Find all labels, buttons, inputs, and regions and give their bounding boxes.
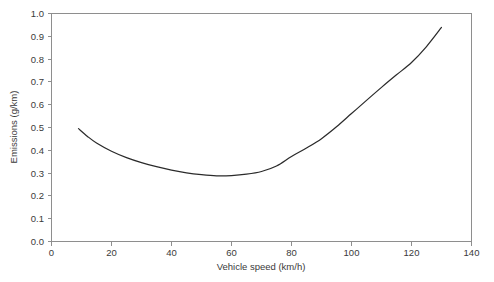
x-tick-label-80: 80 (286, 247, 297, 258)
y-tick-label-0-7: 0.7 (31, 76, 44, 87)
y-tick-label-0-8: 0.8 (31, 54, 44, 65)
emissions-vs-speed-line-chart: 1.0 0.9 0.8 0.7 0.6 0.5 0.4 0.3 0.2 0.1 … (0, 0, 494, 282)
y-tick-label-0-0: 0.0 (31, 236, 44, 247)
x-tick-label-100: 100 (344, 247, 360, 258)
chart-background (0, 0, 494, 282)
x-axis-title: Vehicle speed (km/h) (217, 261, 306, 272)
x-tick-label-0: 0 (49, 247, 54, 258)
y-tick-label-0-6: 0.6 (31, 99, 44, 110)
y-tick-label-0-3: 0.3 (31, 168, 44, 179)
chart-figure: 1.0 0.9 0.8 0.7 0.6 0.5 0.4 0.3 0.2 0.1 … (0, 0, 494, 282)
x-tick-label-20: 20 (106, 247, 117, 258)
y-axis-title: Emissions (g/km) (8, 91, 19, 164)
y-tick-label-1-0: 1.0 (31, 8, 44, 19)
x-tick-label-60: 60 (226, 247, 237, 258)
y-tick-label-0-1: 0.1 (31, 213, 44, 224)
y-tick-label-0-4: 0.4 (31, 145, 44, 156)
y-tick-label-0-5: 0.5 (31, 122, 44, 133)
x-tick-label-120: 120 (404, 247, 420, 258)
x-tick-label-140: 140 (464, 247, 480, 258)
x-tick-label-40: 40 (166, 247, 177, 258)
y-tick-label-0-2: 0.2 (31, 190, 44, 201)
y-tick-label-0-9: 0.9 (31, 31, 44, 42)
